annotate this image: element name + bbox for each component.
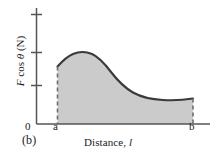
y-axis-label-unit: (N) xyxy=(14,36,26,54)
y-axis-label: F cos θ (N) xyxy=(14,36,26,86)
y-axis-label-cos: cos xyxy=(14,59,26,79)
panel-tag: (b) xyxy=(22,133,36,148)
y-axis-label-wrapper: F cos θ (N) xyxy=(10,16,28,106)
x-axis-label-text: Distance, xyxy=(84,136,129,148)
x-tick-label-a: a xyxy=(53,120,58,132)
x-tick-label-origin: 0 xyxy=(25,120,31,132)
x-axis-label-symbol: l xyxy=(129,136,132,148)
x-axis-label: Distance, l xyxy=(84,136,132,148)
y-axis-label-theta: θ xyxy=(14,54,26,59)
x-tick-label-b: b xyxy=(189,120,195,132)
y-axis-label-force: F xyxy=(14,79,26,86)
figure-panel-b: F cos θ (N) Distance, l (b) 0 a b xyxy=(0,0,212,157)
